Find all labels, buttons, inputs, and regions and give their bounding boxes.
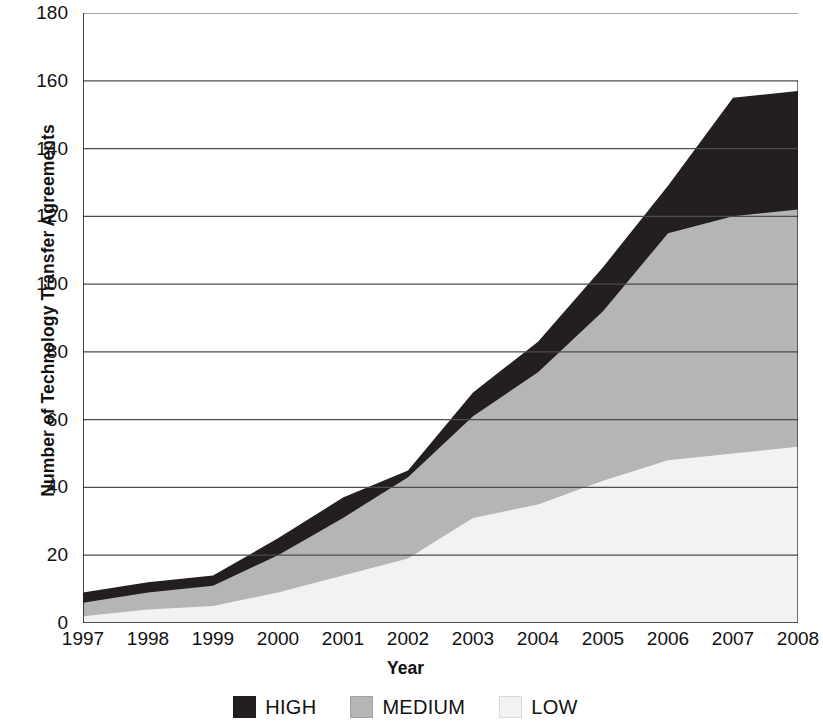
y-axis-tick-labels: 020406080100120140160180 — [14, 0, 68, 640]
x-axis-tick-label: 2006 — [633, 628, 703, 650]
legend-swatch-icon — [350, 696, 373, 718]
legend-label: HIGH — [265, 697, 316, 717]
legend-item-high[interactable]: HIGH — [233, 696, 316, 718]
y-axis-tick-label: 180 — [14, 3, 68, 22]
plot-svg — [83, 13, 798, 623]
legend-item-medium[interactable]: MEDIUM — [350, 696, 465, 718]
x-axis-tick-label: 2004 — [503, 628, 573, 650]
plot-area — [83, 13, 798, 623]
x-axis-tick-label: 1998 — [113, 628, 183, 650]
y-axis-tick-label: 20 — [14, 545, 68, 564]
x-axis-tick-labels: 1997199819992000200120022003200420052006… — [0, 628, 811, 656]
x-axis-tick-label: 2002 — [373, 628, 443, 650]
x-axis-tick-label: 2008 — [763, 628, 823, 650]
x-axis-tick-label: 1999 — [178, 628, 248, 650]
x-axis-tick-label: 2007 — [698, 628, 768, 650]
x-axis-tick-label: 2005 — [568, 628, 638, 650]
y-axis-tick-label: 60 — [14, 410, 68, 429]
chart-legend: HIGHMEDIUMLOW — [0, 690, 811, 724]
y-axis-tick-label: 160 — [14, 71, 68, 90]
x-axis-title: Year — [0, 658, 811, 679]
y-axis-tick-label: 100 — [14, 274, 68, 293]
x-axis-tick-label: 1997 — [48, 628, 118, 650]
y-axis-tick-label: 140 — [14, 139, 68, 158]
legend-swatch-icon — [499, 696, 522, 718]
x-axis-tick-label: 2001 — [308, 628, 378, 650]
legend-label: MEDIUM — [382, 697, 465, 717]
legend-swatch-icon — [233, 696, 256, 718]
x-axis-tick-label: 2000 — [243, 628, 313, 650]
y-axis-tick-label: 80 — [14, 342, 68, 361]
y-axis-tick-label: 40 — [14, 477, 68, 496]
legend-item-low[interactable]: LOW — [499, 696, 577, 718]
legend-label: LOW — [531, 697, 577, 717]
x-axis-tick-label: 2003 — [438, 628, 508, 650]
y-axis-tick-label: 120 — [14, 206, 68, 225]
